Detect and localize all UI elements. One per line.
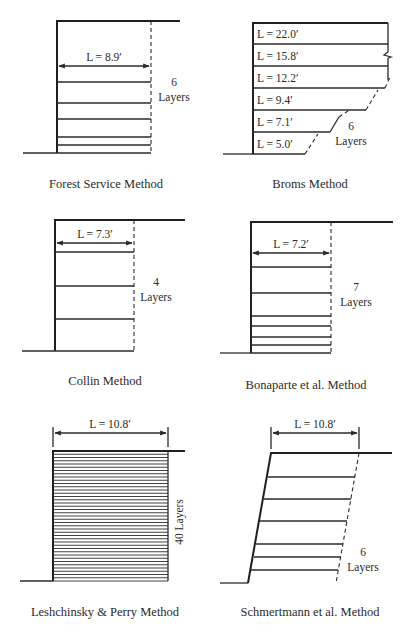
wall-face — [57, 21, 180, 153]
length-label: L = 7.2′ — [273, 238, 309, 250]
layer-count: 7 — [353, 281, 359, 293]
length-label: L = 7.3′ — [77, 228, 113, 240]
panel-schmertmann: L = 10.8′ 6 Layers Schmertmann et al. Me… — [220, 418, 392, 619]
length-label: L = 10.8′ — [294, 418, 335, 430]
length-label: L = 8.9′ — [86, 51, 122, 63]
failure-surface-segment — [330, 117, 339, 132]
reinforcement-layers — [55, 252, 134, 351]
layer-count: 6 — [360, 546, 366, 558]
length-label: L = 10.8′ — [89, 418, 130, 430]
panel-broms: L = 22.0′ L = 15.8′ L = 12.2′ L = 9.4′ L… — [223, 23, 391, 191]
panel-forest-service: L = 8.9′ 6 Layers Forest Service Method — [23, 21, 190, 191]
failure-surface-segment — [305, 134, 318, 154]
layer-word: Layers — [340, 296, 372, 309]
layer-word: Layers — [158, 91, 190, 104]
panel-caption: Forest Service Method — [49, 177, 164, 191]
break-symbol-icon — [384, 52, 391, 58]
panel-caption: Schmertmann et al. Method — [241, 605, 381, 619]
panel-caption: Bonaparte et al. Method — [246, 378, 368, 392]
panel-caption: Collin Method — [68, 374, 142, 388]
layer-word: Layers — [347, 561, 379, 574]
layer-length-label: L = 12.2′ — [257, 72, 298, 84]
dimension-extension-lines — [53, 427, 168, 447]
failure-surface-segment — [366, 90, 378, 110]
layer-length-label: L = 7.1′ — [257, 116, 293, 128]
layer-count: 6 — [171, 76, 177, 88]
reinforcement-layers — [57, 82, 151, 153]
reinforcement-layers — [251, 477, 355, 570]
reinforced-wall-comparison-figure: L = 8.9′ 6 Layers Forest Service Method … — [0, 0, 411, 633]
panel-caption: Broms Method — [272, 177, 348, 191]
layer-length-label: L = 22.0′ — [257, 28, 298, 40]
layer-count: 4 — [153, 276, 159, 288]
layer-word: Layers — [335, 135, 367, 148]
layer-count: 6 — [348, 120, 354, 132]
panel-leshchinsky-perry: L = 10.8′ 40 Layers Leshchinsky & Perry … — [20, 418, 186, 619]
layer-count-vertical: 40 Layers — [173, 499, 186, 545]
failure-surface-segment — [339, 111, 348, 117]
panel-collin: L = 7.3′ 4 Layers Collin Method — [22, 220, 185, 388]
dimension-extension-lines — [271, 427, 359, 449]
reinforcement-layers — [251, 267, 331, 353]
layer-length-label: L = 9.4′ — [257, 94, 293, 106]
panel-caption: Leshchinsky & Perry Method — [31, 605, 180, 619]
reinforcement-layers — [53, 454, 168, 581]
layer-length-label: L = 15.8′ — [257, 50, 298, 62]
panel-bonaparte: L = 7.2′ 7 Layers Bonaparte et al. Metho… — [220, 222, 393, 392]
layer-word: Layers — [140, 291, 172, 304]
layer-length-label: L = 5.0′ — [257, 138, 293, 150]
